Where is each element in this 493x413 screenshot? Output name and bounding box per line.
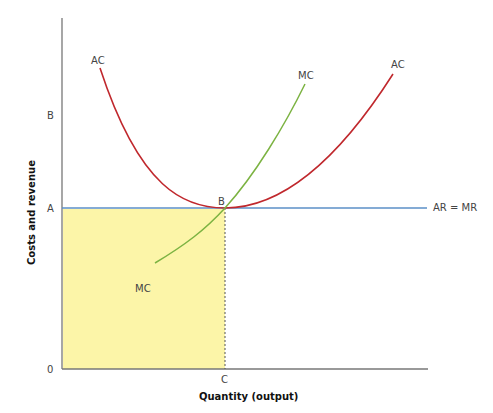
cost-revenue-chart: AC AC MC MC AR = MR B B A 0 C Quantity (… <box>0 0 493 413</box>
x-tick-c: C <box>221 374 228 385</box>
mc-label-bottom: MC <box>135 283 151 294</box>
mc-label-top: MC <box>298 70 314 81</box>
y-tick-a: A <box>47 203 54 214</box>
ac-label-right: AC <box>391 59 405 70</box>
ac-label-left: AC <box>91 55 105 66</box>
ac-curve <box>100 68 393 208</box>
y-tick-b: B <box>47 110 54 121</box>
point-b-label: B <box>218 196 225 207</box>
y-tick-0: 0 <box>47 364 53 375</box>
y-axis-title: Costs and revenue <box>26 160 37 265</box>
x-axis-title: Quantity (output) <box>199 391 298 402</box>
ar-mr-label: AR = MR <box>433 202 477 213</box>
